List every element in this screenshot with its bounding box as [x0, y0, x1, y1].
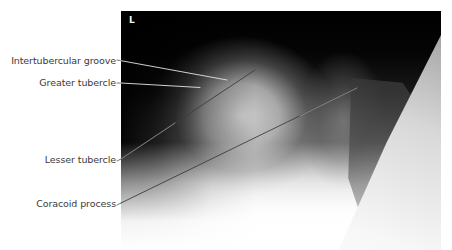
label-coracoid-process: Coracoid process [36, 198, 116, 210]
label-greater-tubercle: Greater tubercle [39, 77, 116, 89]
side-marker-label: L [129, 15, 135, 25]
label-intertubercular-groove: Intertubercular groove [11, 55, 116, 67]
label-lesser-tubercle: Lesser tubercle [45, 154, 116, 166]
shoulder-xray-image: L [121, 11, 441, 250]
radiograph-figure: L Intertubercular groove Greater tubercl… [0, 0, 452, 250]
